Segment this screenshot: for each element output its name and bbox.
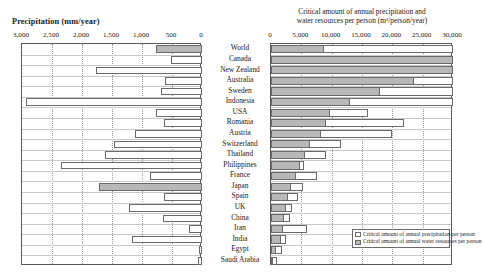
row-separator [22, 255, 200, 256]
left-panel-title: Precipitation (mm/year) [12, 17, 100, 26]
left-bar [150, 172, 202, 180]
country-label: Indonesia [201, 97, 279, 104]
right-bar-water-resources [271, 66, 453, 74]
right-tick-label: 15,000 [349, 31, 373, 39]
left-bar [164, 193, 202, 201]
legend-swatch-gray [355, 240, 361, 245]
legend-item: Critical amount of annual precipitation … [355, 231, 447, 239]
legend-label: Critical amount of annual water resource… [363, 239, 482, 245]
right-tick-label: 5,000 [288, 31, 312, 39]
legend-swatch-white [355, 232, 361, 237]
country-label: Switzerland [201, 140, 279, 147]
left-bar [171, 56, 202, 64]
left-tick-label: 1,500 [100, 31, 122, 39]
country-label: Japan [201, 182, 279, 189]
row-separator [271, 255, 451, 256]
left-bar [96, 67, 202, 75]
country-label: Austria [201, 129, 279, 136]
right-tick-label: 0 [258, 31, 282, 39]
country-label: Thailand [201, 150, 279, 157]
country-label: China [201, 214, 279, 221]
right-tick-label: 20,000 [379, 31, 403, 39]
left-bar [114, 141, 202, 149]
gridline [52, 44, 53, 264]
left-bar [156, 109, 202, 117]
row-separator [22, 224, 200, 225]
right-bar-water-resources [271, 98, 350, 106]
country-label: Romania [201, 118, 279, 125]
left-bar [189, 225, 202, 233]
gridline [82, 44, 83, 264]
left-tick-label: 500 [160, 31, 182, 39]
country-label: Philippines [201, 161, 279, 168]
country-label: Saudi Arabia [201, 256, 279, 263]
left-bar [164, 119, 202, 127]
country-label: Spain [201, 192, 279, 199]
country-axis-labels: WorldCanadaNew ZealandAustraliaSwedenInd… [201, 43, 279, 265]
row-separator [271, 213, 451, 214]
right-bar-water-resources [271, 119, 326, 127]
left-bar [156, 45, 202, 53]
row-separator [22, 245, 200, 246]
country-label: Canada [201, 55, 279, 62]
country-label: India [201, 235, 279, 242]
left-bar [105, 151, 202, 159]
right-tick-label: 10,000 [319, 31, 343, 39]
right-bar-water-resources [271, 109, 330, 117]
right-bar-water-resources [271, 87, 380, 95]
left-bar [163, 215, 202, 223]
country-label: USA [201, 108, 279, 115]
left-bar [161, 88, 202, 96]
left-tick-label: 2,500 [40, 31, 62, 39]
country-label: Iran [201, 224, 279, 231]
country-label: World [201, 44, 279, 51]
left-tick-label: 1,000 [130, 31, 152, 39]
row-separator [271, 203, 451, 204]
right-panel-legend: Critical amount of annual precipitation … [352, 229, 450, 248]
left-bar [61, 162, 202, 170]
left-bar [165, 77, 202, 85]
left-plot-area [21, 43, 201, 265]
country-label: France [201, 171, 279, 178]
left-bar [132, 236, 202, 244]
right-panel-title-line1: Critical amount of annual precipitation … [265, 7, 459, 16]
right-bar-water-resources [271, 77, 414, 85]
country-label: Australia [201, 76, 279, 83]
left-tick-label: 3,000 [10, 31, 32, 39]
right-tick-label: 25,000 [410, 31, 434, 39]
country-label: Sweden [201, 87, 279, 94]
left-bar [99, 183, 202, 191]
left-tick-label: 0 [190, 31, 212, 39]
country-label: UK [201, 203, 279, 210]
left-bar [129, 204, 202, 212]
country-label: Egypt [201, 245, 279, 252]
left-bar [26, 98, 202, 106]
country-label: New Zealand [201, 66, 279, 73]
right-panel-title-line2: water resources per person (m³/person/ye… [265, 16, 459, 25]
legend-label: Critical amount of annual precipitation … [363, 232, 475, 238]
right-tick-label: 30,000 [440, 31, 464, 39]
left-bar [135, 130, 202, 138]
right-bar-water-resources [271, 56, 453, 64]
legend-item: Critical amount of annual water resource… [355, 239, 447, 247]
left-tick-label: 2,000 [70, 31, 92, 39]
